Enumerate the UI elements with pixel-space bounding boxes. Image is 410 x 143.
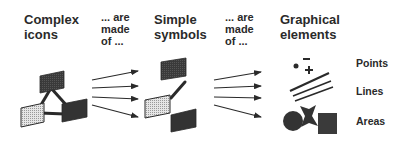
- complex-dark-rect-top: [40, 71, 64, 93]
- area-bowtie: [300, 105, 318, 127]
- complex-stipple-rect: [21, 103, 44, 127]
- symbol-stipple-rect: [145, 95, 170, 118]
- area-circle: [283, 111, 303, 131]
- line-element-2: [293, 81, 331, 96]
- complex-icon-composite: [21, 71, 87, 127]
- simple-symbols: [145, 58, 196, 132]
- line-element-3: [295, 87, 333, 101]
- area-square: [318, 113, 337, 134]
- arrows-complex-to-simple: [92, 71, 138, 117]
- symbol-dark-rect-top: [161, 58, 186, 80]
- point-dot-icon: [294, 64, 299, 69]
- line-element-1: [290, 73, 329, 91]
- symbol-dark-rect-bottom: [171, 109, 196, 132]
- symbol-line: [171, 82, 185, 98]
- arrows-simple-to-elements: [214, 72, 261, 117]
- graphical-elements: [283, 59, 337, 134]
- diagram-canvas: [0, 0, 410, 143]
